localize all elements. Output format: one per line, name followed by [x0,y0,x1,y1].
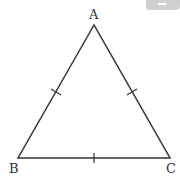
vertex-label-c: C [166,161,176,176]
triangle-diagram: A B C [0,0,180,176]
triangle-abc [18,25,170,158]
tick-mark-ab [51,89,61,95]
tick-mark-ac [127,89,137,95]
corner-tab [146,0,180,10]
vertex-label-a: A [88,7,99,22]
vertex-label-b: B [9,161,19,176]
